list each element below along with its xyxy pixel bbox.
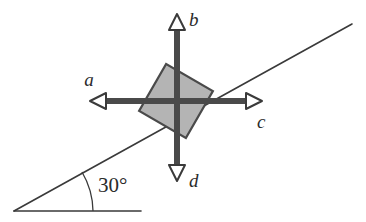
- figure-canvas: 30° a b c d: [0, 0, 366, 222]
- inclined-plane-diagram: 30° a b c d: [0, 0, 366, 222]
- vector-b-label: b: [189, 9, 199, 30]
- vector-d-arrowhead: [169, 165, 185, 181]
- vector-a-label: a: [84, 69, 94, 90]
- angle-label: 30°: [98, 173, 127, 197]
- vector-a-arrowhead: [90, 93, 106, 109]
- vector-b-arrowhead: [169, 14, 185, 30]
- vector-d-label: d: [189, 170, 199, 191]
- vector-c-arrowhead: [246, 93, 262, 109]
- angle-arc: [82, 172, 93, 211]
- vector-c-label: c: [257, 111, 266, 132]
